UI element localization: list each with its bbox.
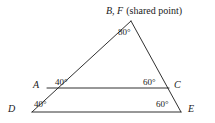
angle-label-a-40: 40° xyxy=(55,78,68,87)
apex-label-shared-point: B, F(shared point) xyxy=(106,6,182,16)
apex-note: (shared point) xyxy=(126,5,182,16)
triangle-diagram-svg xyxy=(0,0,215,123)
angle-label-d-40: 40° xyxy=(34,100,47,109)
angle-label-e-60: 60° xyxy=(156,100,169,109)
angle-label-c-60: 60° xyxy=(143,78,156,87)
apex-vertex-names: B, F xyxy=(106,5,123,16)
point-label-d: D xyxy=(8,104,15,114)
point-label-a: A xyxy=(33,80,39,90)
angle-label-apex-80: 80° xyxy=(118,28,131,37)
point-label-c: C xyxy=(174,80,181,90)
geometry-figure: B, F(shared point) 80° A 40° C 60° D 40°… xyxy=(0,0,215,123)
point-label-e: E xyxy=(188,104,194,114)
